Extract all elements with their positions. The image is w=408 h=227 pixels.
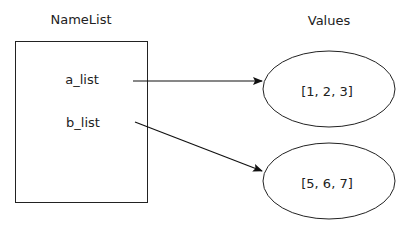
name-a-list: a_list — [65, 72, 99, 87]
namespace-diagram: NameList Values a_list b_list [1, 2, 3] … — [0, 0, 408, 227]
value-2: [5, 6, 7] — [301, 176, 353, 191]
value-1: [1, 2, 3] — [301, 84, 353, 99]
values-title: Values — [308, 13, 351, 28]
name-b-list: b_list — [66, 115, 100, 130]
arrow-b-list — [135, 122, 262, 171]
namelist-title: NameList — [50, 12, 111, 27]
